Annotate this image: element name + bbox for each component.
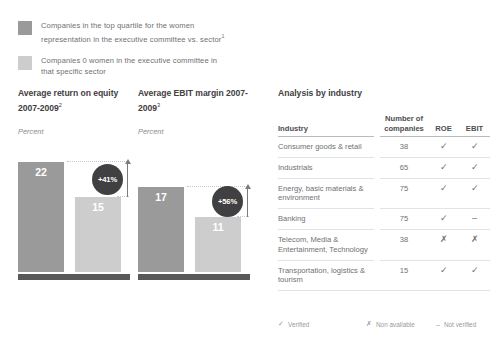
column-header-ebit: EBIT (459, 114, 490, 137)
footer-legend-verified: ✓ Verified (278, 320, 366, 328)
legend-line-1: Companies 0 women in the executive commi… (41, 56, 217, 65)
industry-table: Industry Number of companies ROE EBIT Co… (278, 114, 490, 291)
chart-plot-ebit: +56% 17 11 (138, 142, 250, 272)
legend-item-top-quartile: Companies in the top quartile for the wo… (18, 20, 288, 45)
delta-badge-roe: +41% (92, 164, 123, 195)
cell-roe-status: ✓ (428, 137, 459, 158)
delta-arrow-icon (127, 162, 128, 197)
guide-line-dotted-top (67, 161, 129, 162)
table-title: Analysis by industry (278, 88, 490, 98)
footer-legend-non-available: ✗ Non available (366, 320, 436, 328)
table-row: Consumer goods & retail38✓✓ (278, 137, 490, 158)
legend-label-top-quartile: Companies in the top quartile for the wo… (41, 20, 224, 45)
chart-title-footnote: 3 (157, 102, 160, 108)
cell-industry: Industrials (278, 157, 374, 178)
legend-swatch-light (18, 56, 32, 70)
cell-roe-status: ✓ (428, 157, 459, 178)
table-row: Energy, basic materials & environment75✓… (278, 178, 490, 209)
table-header-row: Industry Number of companies ROE EBIT (278, 114, 490, 137)
table-row: Transportation, logistics & tourism15✓✓ (278, 260, 490, 291)
chart-title-text: Average return on equity 2007-2009 (18, 88, 118, 112)
check-icon: ✓ (278, 320, 284, 328)
column-header-number-of-companies: Number of companies (380, 114, 428, 137)
column-header-line-1: Number of (385, 114, 423, 123)
cell-industry: Telecom, Media & Entertainment, Technolo… (278, 229, 374, 260)
table-row: Industrials65✓✓ (278, 157, 490, 178)
footer-legend-label: Verified (288, 321, 309, 328)
cell-ebit-status: – (459, 209, 490, 230)
table-row: Telecom, Media & Entertainment, Technolo… (278, 229, 490, 260)
bar-value-label: 11 (195, 221, 241, 233)
chart-panel-roe: Average return on equity 2007-20092 Perc… (18, 88, 130, 272)
bar-ebit-top-quartile: 17 (138, 187, 184, 272)
cross-icon: ✗ (366, 320, 372, 328)
delta-arrow-icon (247, 187, 248, 217)
delta-badge-label: +56% (218, 197, 237, 206)
legend-footnote-marker: 1 (221, 33, 224, 39)
bar-value-label: 22 (18, 166, 64, 178)
cell-ebit-status: ✓ (459, 260, 490, 291)
legend-line-2: representation in the executive committe… (41, 35, 221, 44)
chart-baseline-ebit (138, 274, 250, 280)
cell-number-of-companies: 38 (380, 137, 428, 158)
cell-ebit-status: ✗ (459, 229, 490, 260)
legend-swatch-dark (18, 21, 32, 35)
chart-title-roe: Average return on equity 2007-20092 (18, 88, 130, 114)
cell-roe-status: ✓ (428, 209, 459, 230)
chart-unit-label-ebit: Percent (138, 127, 250, 136)
chart-title-text: Average EBIT margin 2007-2009 (138, 88, 248, 112)
dash-icon: – (436, 321, 440, 328)
cell-ebit-status: ✓ (459, 157, 490, 178)
cell-number-of-companies: 15 (380, 260, 428, 291)
delta-badge-ebit: +56% (212, 186, 243, 217)
chart-panel-ebit: Average EBIT margin 2007-20093 Percent +… (138, 88, 250, 272)
chart-baseline-roe (18, 274, 130, 280)
cell-roe-status: ✗ (428, 229, 459, 260)
chart-title-ebit: Average EBIT margin 2007-20093 (138, 88, 250, 114)
column-header-industry: Industry (278, 114, 374, 137)
table-row: Banking75✓– (278, 209, 490, 230)
cell-industry: Energy, basic materials & environment (278, 178, 374, 209)
cell-number-of-companies: 65 (380, 157, 428, 178)
column-header-line-2: companies (384, 124, 424, 133)
cell-roe-status: ✓ (428, 178, 459, 209)
cell-industry: Banking (278, 209, 374, 230)
legend-label-zero-women: Companies 0 women in the executive commi… (41, 55, 217, 77)
cell-number-of-companies: 75 (380, 209, 428, 230)
bar-value-label: 15 (75, 201, 121, 213)
industry-table-body: Consumer goods & retail38✓✓Industrials65… (278, 137, 490, 291)
chart-legend: Companies in the top quartile for the wo… (18, 20, 288, 87)
cell-ebit-status: ✓ (459, 178, 490, 209)
bar-value-label: 17 (138, 191, 184, 203)
legend-item-zero-women: Companies 0 women in the executive commi… (18, 55, 288, 77)
guide-line-dotted-top (187, 186, 249, 187)
delta-badge-label: +41% (98, 175, 117, 184)
footer-legend-label: Non available (376, 321, 415, 328)
bar-ebit-zero-women: 11 (195, 217, 241, 272)
cell-number-of-companies: 38 (380, 229, 428, 260)
cell-industry: Transportation, logistics & tourism (278, 260, 374, 291)
cell-ebit-status: ✓ (459, 137, 490, 158)
column-header-roe: ROE (428, 114, 459, 137)
cell-roe-status: ✓ (428, 260, 459, 291)
bar-roe-zero-women: 15 (75, 197, 121, 272)
chart-plot-roe: +41% 22 15 (18, 142, 130, 272)
legend-line-2: that specific sector (41, 67, 106, 76)
bar-roe-top-quartile: 22 (18, 162, 64, 272)
cell-number-of-companies: 75 (380, 178, 428, 209)
footer-legend-label: Not verified (444, 321, 476, 328)
chart-unit-label-roe: Percent (18, 127, 130, 136)
table-footer-legend: ✓ Verified ✗ Non available – Not verifie… (278, 320, 493, 328)
footer-legend-not-verified: – Not verified (436, 320, 476, 328)
chart-title-footnote: 2 (59, 102, 62, 108)
legend-line-1: Companies in the top quartile for the wo… (41, 21, 194, 30)
cell-industry: Consumer goods & retail (278, 137, 374, 158)
industry-analysis-panel: Analysis by industry Industry Number of … (278, 88, 490, 291)
